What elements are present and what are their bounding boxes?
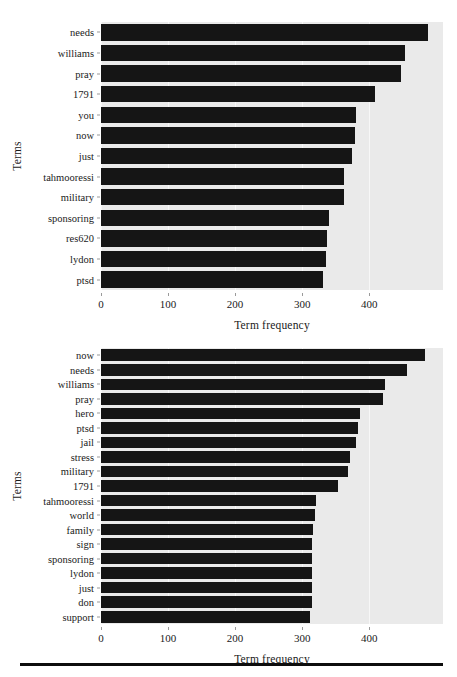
y-tick-label: res620 xyxy=(66,233,94,244)
bar xyxy=(101,107,356,123)
bar-row xyxy=(101,509,443,521)
y-tick-mark xyxy=(97,114,100,115)
bar xyxy=(101,210,329,226)
bar xyxy=(101,168,344,184)
y-tick-label: needs xyxy=(70,364,94,375)
bar xyxy=(101,582,312,594)
y-tick-label: just xyxy=(79,151,94,162)
bar-row xyxy=(101,538,443,550)
y-tick-mark xyxy=(97,355,100,356)
y-tick-label: pray xyxy=(75,68,94,79)
y-tick-label: needs xyxy=(70,27,94,38)
y-tick-label: family xyxy=(67,524,94,535)
bar xyxy=(101,189,344,205)
y-axis-title-bottom: Terms xyxy=(11,471,23,501)
bar-row xyxy=(101,524,443,536)
y-tick-label: world xyxy=(70,510,95,521)
y-tick-label: jail xyxy=(81,437,94,448)
bar xyxy=(101,596,312,608)
y-tick-mark xyxy=(97,587,100,588)
bar-row xyxy=(101,379,443,391)
y-tick-mark xyxy=(97,384,100,385)
y-tick-mark xyxy=(97,544,100,545)
bar xyxy=(101,538,312,550)
y-tick-mark xyxy=(97,427,100,428)
y-tick-label: just xyxy=(79,582,94,593)
y-tick-mark xyxy=(97,73,100,74)
x-tick-mark xyxy=(235,293,236,296)
x-tick-mark xyxy=(101,627,102,630)
x-tick-mark xyxy=(369,627,370,630)
bar xyxy=(101,466,348,478)
y-tick-label: sponsoring xyxy=(48,553,94,564)
footer-rule xyxy=(20,663,443,666)
bar-chart-top: Terms needswilliamspray1791younowjusttah… xyxy=(0,0,457,330)
x-tick-mark xyxy=(302,293,303,296)
bar xyxy=(101,86,375,102)
bar-row xyxy=(101,495,443,507)
x-tick-label: 200 xyxy=(227,298,244,310)
y-tick-mark xyxy=(97,398,100,399)
y-tick-label: williams xyxy=(58,47,94,58)
bar xyxy=(101,230,327,246)
x-axis-title-top: Term frequency xyxy=(101,319,443,331)
bar-row xyxy=(101,596,443,608)
y-tick-mark xyxy=(97,279,100,280)
bar-row xyxy=(101,451,443,463)
x-tick-mark xyxy=(369,293,370,296)
y-tick-mark xyxy=(97,442,100,443)
x-tick-label: 200 xyxy=(227,632,244,644)
y-tick-label: military xyxy=(61,466,94,477)
y-tick-mark xyxy=(97,94,100,95)
bar xyxy=(101,524,313,536)
y-tick-label: you xyxy=(78,109,94,120)
x-tick-label: 0 xyxy=(98,632,104,644)
bar-row xyxy=(101,582,443,594)
bar xyxy=(101,45,405,61)
y-tick-label: sign xyxy=(76,539,94,550)
bar-row xyxy=(101,611,443,623)
bar xyxy=(101,251,326,267)
bar xyxy=(101,127,355,143)
x-tick-label: 400 xyxy=(361,298,378,310)
bar-row xyxy=(101,422,443,434)
bar xyxy=(101,509,315,521)
y-tick-label: 1791 xyxy=(73,89,94,100)
bar xyxy=(101,451,350,463)
y-tick-mark xyxy=(97,573,100,574)
bar-row xyxy=(101,189,443,205)
bar-row xyxy=(101,230,443,246)
bar-row xyxy=(101,65,443,81)
bar xyxy=(101,379,385,391)
bar-row xyxy=(101,408,443,420)
bar-row xyxy=(101,127,443,143)
bar xyxy=(101,24,428,40)
y-tick-label: 1791 xyxy=(73,481,94,492)
bar xyxy=(101,422,358,434)
y-tick-label: sponsoring xyxy=(48,212,94,223)
x-tick-labels-bottom: 0100200300400 xyxy=(0,627,457,641)
plot-area-top xyxy=(101,22,443,290)
chart-top-canvas: Terms needswilliamspray1791younowjusttah… xyxy=(0,0,457,330)
bar-row xyxy=(101,567,443,579)
x-tick-labels-top: 0100200300400 xyxy=(0,293,457,307)
bar xyxy=(101,567,312,579)
bar-row xyxy=(101,349,443,361)
y-tick-mark xyxy=(97,529,100,530)
plot-area-bottom xyxy=(101,348,443,624)
bar xyxy=(101,148,352,164)
y-tick-label: lydon xyxy=(70,568,94,579)
y-tick-label: military xyxy=(61,192,94,203)
bar-row xyxy=(101,364,443,376)
bar-row xyxy=(101,107,443,123)
y-tick-label: hero xyxy=(75,408,94,419)
y-tick-mark xyxy=(97,486,100,487)
y-tick-label: now xyxy=(76,130,94,141)
y-tick-label: lydon xyxy=(70,254,94,265)
y-tick-mark xyxy=(97,500,100,501)
x-tick-mark xyxy=(302,627,303,630)
bar xyxy=(101,437,356,449)
y-tick-mark xyxy=(97,176,100,177)
bar xyxy=(101,480,338,492)
bar xyxy=(101,65,401,81)
